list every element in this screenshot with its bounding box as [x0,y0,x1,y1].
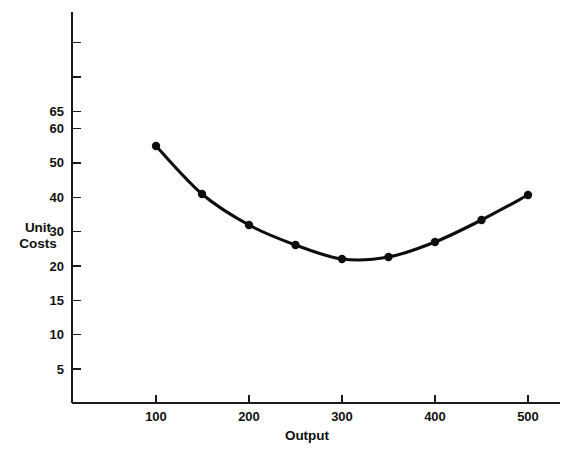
chart-figure: 51015203040506065 100200300400500 Output… [0,0,581,457]
y-tick-label-65: 65 [50,104,64,119]
x-tick-label-300: 300 [331,409,353,424]
data-point-100 [152,142,160,150]
data-point-200 [245,221,253,229]
data-point-350 [384,253,392,261]
y-tick-label-15: 15 [50,293,64,308]
x-tick-label-500: 500 [517,409,539,424]
x-tick-label-100: 100 [145,409,167,424]
y-tick-label-60: 60 [50,121,64,136]
data-point-150 [198,190,206,198]
data-point-300 [338,255,346,263]
y-tick-label-10: 10 [50,327,64,342]
data-point-450 [477,216,485,224]
x-axis-title: Output [285,428,330,443]
data-point-500 [524,191,532,199]
y-tick-label-20: 20 [50,259,64,274]
chart-background [0,0,581,457]
y-tick-label-50: 50 [50,155,64,170]
chart-canvas: 51015203040506065 100200300400500 Output… [0,0,581,457]
y-axis-title-line2: Costs [19,236,57,251]
data-point-250 [291,241,299,249]
x-tick-label-200: 200 [238,409,260,424]
y-axis-title-line1: Unit [25,220,52,235]
data-point-400 [431,238,439,246]
y-tick-label-5: 5 [57,362,64,377]
x-tick-label-400: 400 [424,409,446,424]
y-tick-label-40: 40 [50,190,64,205]
